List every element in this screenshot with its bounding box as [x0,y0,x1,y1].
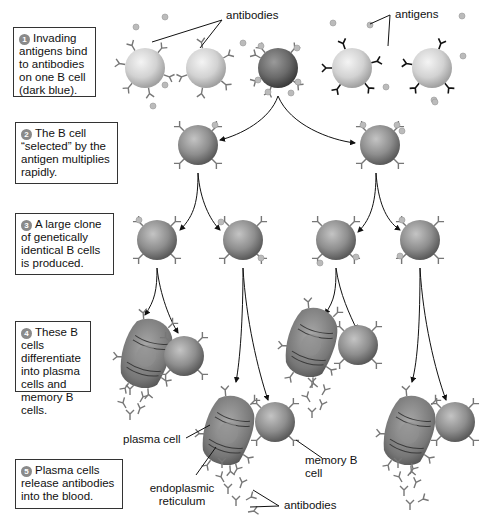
b-cell-4 [322,38,382,94]
step-2-box: 2The B cell “selected” by the antigen mu… [15,122,118,184]
label-antibodies-bottom: antibodies [284,499,336,512]
released-antibodies-1 [118,385,149,420]
step-3-box: 3A large clone of genetically identical … [15,213,114,275]
step-number-badge: 1 [19,34,30,45]
b-cell-clone-3d [396,216,444,264]
step-number-badge: 2 [21,129,32,140]
label-antibodies-top: antibodies [226,9,278,22]
b-cell-clone-3b [218,216,267,264]
label-endoplasmic-reticulum: endoplasmic reticulum [149,482,215,508]
memory-b-cell-4 [431,398,479,446]
step-number-badge: 3 [21,220,32,231]
label-antigens: antigens [395,8,438,21]
b-cell-selected [250,42,304,97]
step-5-text: Plasma cells release antibodies into the… [21,464,114,502]
antigens-callout [370,15,390,46]
step-4-box: 4These B cells differentiate into plasma… [15,321,91,392]
step-4-text: These B cells differentiate into plasma … [21,326,81,416]
clonal-selection-diagram: 1Invading antigens bind to antibodies on… [0,0,486,526]
b-cell-clone-3a [133,216,181,264]
label-memory-b-cell: memory B cell [305,454,357,480]
step-5-box: 5Plasma cells release antibodies into th… [15,459,123,509]
memory-b-cell-2 [334,321,382,369]
b-cell-5 [402,38,455,93]
step-number-badge: 5 [21,466,32,477]
b-cell-clone-2b [356,121,405,169]
label-plasma-cell: plasma cell [123,433,181,446]
b-cell-clone-2a [174,121,222,169]
antibodies-callout [152,20,222,48]
step-2-text: The B cell “selected” by the antigen mul… [21,127,110,178]
b-cell-2 [176,38,234,98]
released-antibodies-2 [302,378,331,418]
step-number-badge: 4 [21,328,32,339]
b-cell-clone-3c [312,216,360,266]
step-1-box: 1Invading antigens bind to antibodies on… [13,27,96,97]
memory-b-cell-1 [160,332,208,380]
memory-b-cell-3 [251,398,299,446]
b-cell-1 [115,40,175,98]
step-3-text: A large clone of genetically identical B… [21,218,102,269]
